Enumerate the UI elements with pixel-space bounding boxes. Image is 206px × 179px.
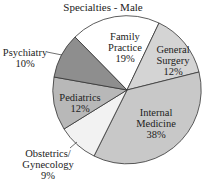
label-internal-medicine: Internal Medicine 38% (129, 107, 183, 140)
label-general-surgery: General Surgery 12% (148, 44, 198, 77)
label-psychiatry: Psychiatry 10% (2, 47, 48, 69)
label-pediatrics: Pediatrics 12% (55, 92, 105, 114)
psychiatry-leader (47, 52, 62, 55)
label-family-practice: Family Practice 19% (100, 31, 150, 64)
label-obgyn: Obstetrics/ Gynecology 9% (18, 148, 78, 179)
